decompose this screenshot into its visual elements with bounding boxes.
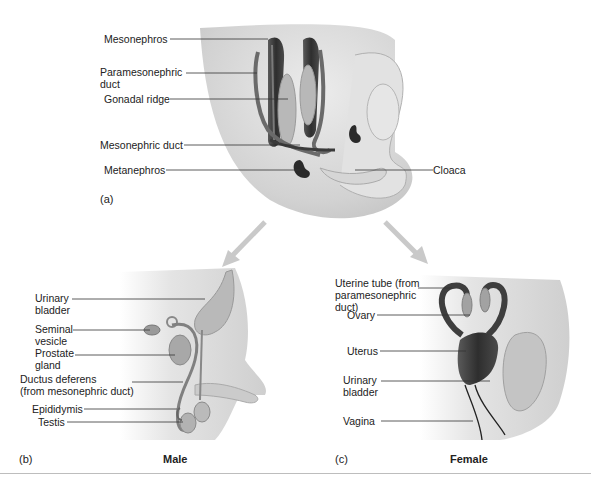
label-paramesonephric-duct: Paramesonephric duct [100, 66, 182, 90]
embryo-illustration [0, 0, 591, 489]
label-uterus: Uterus [347, 345, 378, 357]
caption-divider [0, 473, 591, 474]
panel-b-letter: (b) [19, 453, 32, 465]
label-cloaca: Cloaca [433, 164, 466, 176]
label-gonadal-ridge: Gonadal ridge [104, 93, 170, 105]
label-mesonephros: Mesonephros [104, 33, 168, 45]
label-prostate-gland: Prostate gland [35, 347, 74, 371]
label-epididymis: Epididymis [32, 403, 83, 415]
label-vagina: Vagina [343, 415, 375, 427]
panel-c-title: Female [450, 453, 488, 465]
panel-a-letter: (a) [100, 193, 113, 205]
label-ductus-deferens: Ductus deferens (from mesonephric duct) [20, 373, 134, 397]
label-testis: Testis [38, 416, 65, 428]
label-seminal-vesicle: Seminal vesicle [35, 323, 73, 347]
panel-c-letter: (c) [335, 453, 348, 465]
developmental-arrows [222, 222, 428, 267]
panel-a-body [200, 24, 412, 218]
label-uterine-tube: Uterine tube (from paramesonephric duct) [335, 277, 420, 313]
panel-b-male-body [120, 268, 266, 440]
panel-c-female-body [420, 275, 569, 440]
label-male-urinary-bladder: Urinary bladder [35, 292, 70, 316]
label-metanephros: Metanephros [104, 164, 165, 176]
label-ovary: Ovary [347, 309, 375, 321]
label-female-urinary-bladder: Urinary bladder [343, 374, 378, 398]
label-mesonephric-duct: Mesonephric duct [100, 139, 183, 151]
panel-b-title: Male [163, 453, 187, 465]
